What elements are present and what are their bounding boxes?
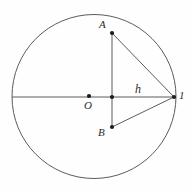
label-point-b: B bbox=[98, 127, 105, 138]
geometry-diagram bbox=[0, 0, 192, 193]
line-a-to-vertex bbox=[112, 33, 174, 97]
circle-outline bbox=[12, 15, 176, 179]
label-vertex-right: 1 bbox=[179, 90, 185, 101]
point-a-dot bbox=[110, 31, 114, 35]
chord-midpoint-dot bbox=[110, 95, 114, 99]
vertex-right-dot bbox=[172, 95, 176, 99]
line-b-to-vertex bbox=[112, 97, 174, 127]
point-o-dot bbox=[87, 94, 91, 98]
label-point-a: A bbox=[99, 19, 106, 30]
geometry-figure: A B O h 1 bbox=[0, 0, 192, 193]
label-segment-h: h bbox=[135, 83, 141, 95]
label-center-o: O bbox=[84, 100, 92, 111]
point-b-dot bbox=[110, 125, 114, 129]
